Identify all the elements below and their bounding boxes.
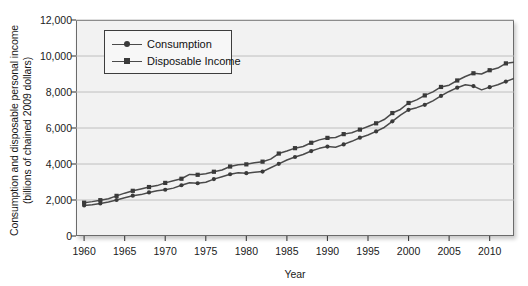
legend-marker-circle-icon: [112, 38, 142, 50]
x-tick-label: 1980: [223, 245, 269, 257]
legend-marker-square-icon: [112, 55, 142, 67]
x-tick-label: 1965: [102, 245, 148, 257]
x-tick-label: 1975: [183, 245, 229, 257]
x-tick-label: 2010: [467, 245, 513, 257]
x-tick-marks: [84, 236, 490, 241]
legend-item-disposable-income: Disposable Income: [112, 52, 241, 70]
x-tick-label: 2005: [426, 245, 472, 257]
chart-legend: Consumption Disposable Income: [104, 30, 232, 74]
x-tick-label: 1990: [304, 245, 350, 257]
series-disposable-income: [82, 61, 514, 205]
x-tick-label: 1960: [61, 245, 107, 257]
legend-item-consumption: Consumption: [112, 35, 212, 53]
y-tick-marks: [71, 20, 76, 236]
legend-label-consumption: Consumption: [147, 38, 212, 50]
x-tick-label: 2000: [386, 245, 432, 257]
legend-label-disposable-income: Disposable Income: [147, 55, 241, 67]
x-tick-label: 1970: [142, 245, 188, 257]
data-series-group: [82, 61, 514, 207]
x-tick-label: 1995: [345, 245, 391, 257]
x-tick-label: 1985: [264, 245, 310, 257]
chart-canvas: [0, 0, 528, 286]
x-axis-title: Year: [76, 268, 514, 280]
chart-figure: Consumption and disposable personal inco…: [0, 0, 528, 286]
